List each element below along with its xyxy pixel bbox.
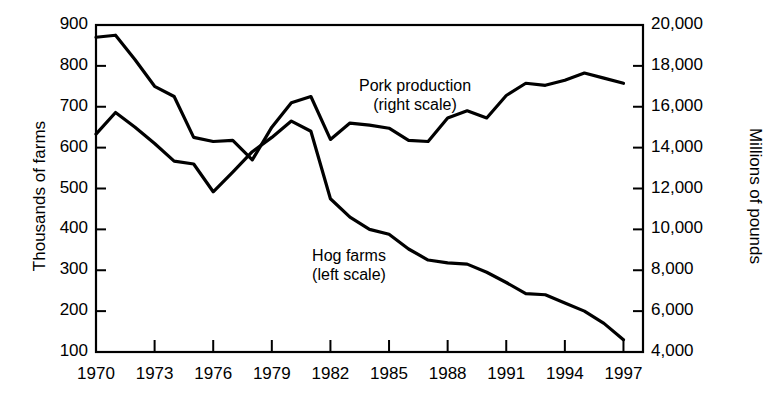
x-tick-label: 1985: [359, 364, 419, 384]
y-left-tick-label: 400: [0, 218, 88, 238]
y-right-tick-label: 20,000: [651, 14, 741, 34]
series-annotation-hog-farms: Hog farms (left scale): [274, 246, 424, 284]
y-left-tick-label: 800: [0, 55, 88, 75]
x-tick-label: 1976: [183, 364, 243, 384]
y-left-tick-label: 100: [0, 341, 88, 361]
hog-annotation-line2: (left scale): [274, 265, 424, 284]
pork-annotation-line2: (right scale): [320, 95, 510, 114]
pork-annotation-line1: Pork production: [320, 76, 510, 95]
y-left-tick-label: 300: [0, 259, 88, 279]
y-left-tick-label: 500: [0, 178, 88, 198]
y-right-tick-label: 16,000: [651, 96, 741, 116]
y-left-tick-label: 200: [0, 300, 88, 320]
x-tick-label: 1970: [66, 364, 126, 384]
y-right-tick-label: 14,000: [651, 137, 741, 157]
y-right-tick-label: 10,000: [651, 218, 741, 238]
x-tick-label: 1973: [125, 364, 185, 384]
x-tick-label: 1991: [476, 364, 536, 384]
y-right-tick-label: 6,000: [651, 300, 741, 320]
y-axis-right-title: Millions of pounds: [745, 81, 765, 311]
series-annotation-pork-production: Pork production (right scale): [320, 76, 510, 114]
hog-farms-pork-production-chart: Thousands of farms Millions of pounds 10…: [0, 0, 769, 414]
x-tick-label: 1988: [418, 364, 478, 384]
x-tick-label: 1994: [535, 364, 595, 384]
y-right-tick-label: 4,000: [651, 341, 741, 361]
y-left-tick-label: 700: [0, 96, 88, 116]
y-right-tick-label: 12,000: [651, 178, 741, 198]
x-tick-label: 1982: [300, 364, 360, 384]
y-right-tick-label: 8,000: [651, 259, 741, 279]
y-left-tick-label: 600: [0, 137, 88, 157]
y-left-tick-label: 900: [0, 14, 88, 34]
x-tick-label: 1997: [593, 364, 653, 384]
y-right-tick-label: 18,000: [651, 55, 741, 75]
hog-annotation-line1: Hog farms: [274, 246, 424, 265]
x-tick-label: 1979: [242, 364, 302, 384]
